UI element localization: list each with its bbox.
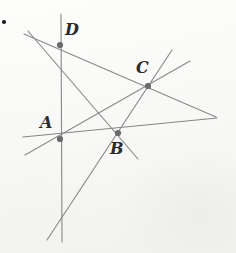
node-C <box>145 83 151 89</box>
geometry-figure-page: A B C D <box>0 0 236 253</box>
stray-ink-dot <box>2 20 6 24</box>
geometry-drawing <box>0 0 236 253</box>
line-A-C-upper <box>25 61 190 155</box>
node-B <box>115 130 121 136</box>
point-label-D: D <box>65 22 79 38</box>
node-A <box>57 136 63 142</box>
point-label-C: C <box>136 60 149 76</box>
nodes-group <box>57 42 151 142</box>
node-D <box>57 42 63 48</box>
point-label-B: B <box>110 141 124 157</box>
line-vertical-D-A <box>61 14 62 242</box>
point-label-A: A <box>40 115 52 131</box>
line-D-C-right <box>24 34 216 117</box>
